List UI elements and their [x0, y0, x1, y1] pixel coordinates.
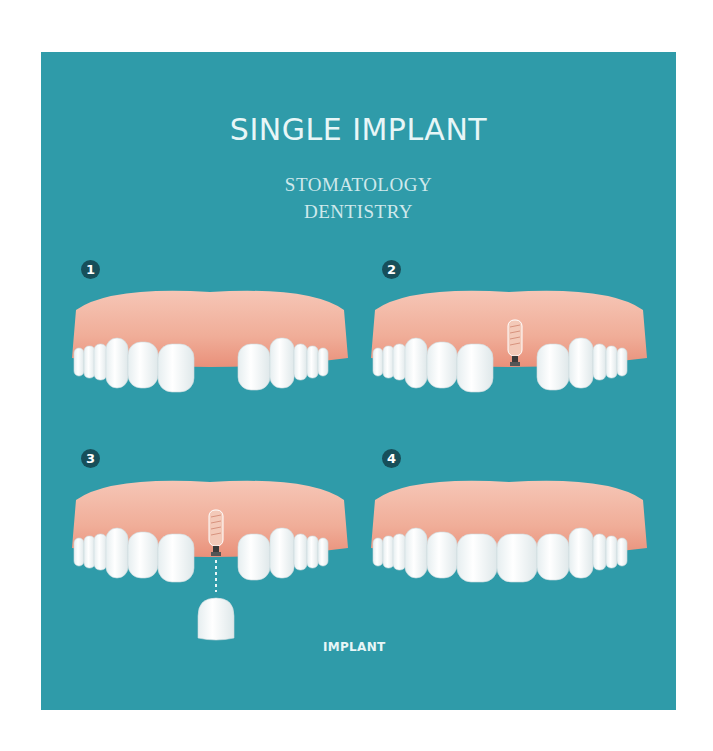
- teeth-illustration-step-3: [70, 470, 350, 660]
- page-title: SINGLE IMPLANT: [41, 112, 676, 147]
- step-badge-3: 3: [81, 449, 100, 468]
- step-badge-4: 4: [382, 449, 401, 468]
- step-badge-1: 1: [81, 260, 100, 279]
- teeth-illustration-step-4: [369, 470, 649, 590]
- subtitle-line-1: STOMATOLOGY: [41, 174, 676, 196]
- teeth-illustration-step-2: [369, 280, 649, 400]
- step-badge-2: 2: [382, 260, 401, 279]
- crown-icon: [198, 598, 234, 640]
- subtitle-line-2: DENTISTRY: [41, 201, 676, 223]
- teeth-illustration-step-1: [70, 280, 350, 400]
- implant-caption: IMPLANT: [323, 640, 385, 654]
- infographic-panel: SINGLE IMPLANT STOMATOLOGY DENTISTRY 1: [41, 52, 676, 710]
